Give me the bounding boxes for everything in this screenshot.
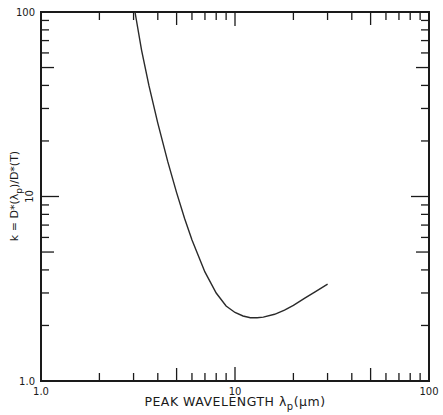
x-axis-label-sub: p [287,401,294,412]
data-curve [135,12,328,318]
y-tick-label-1: 1.0 [19,376,35,387]
chart-canvas: 1.0 10 100 1.0 100 10 PEAK WAVELENGTH λp… [0,0,443,415]
x-axis-label-main: PEAK WAVELENGTH λ [144,394,286,409]
y-axis-label-pre: k = D*(λ [8,193,21,241]
y-axis-label-post: )/D*(T) [8,151,21,188]
log-log-chart: 1.0 10 100 1.0 100 10 PEAK WAVELENGTH λp… [0,0,443,415]
y-axis-label: k = D*(λp)/D*(T) [8,151,24,241]
x-axis-label: PEAK WAVELENGTH λp(μm) [144,394,325,412]
x-tick-label-1: 1.0 [33,386,49,397]
plot-frame [41,12,429,381]
x-tick-label-100: 100 [419,386,438,397]
y-tick-label-100: 100 [16,7,35,18]
y-tick-label-10: 10 [24,190,35,203]
axis-ticks [41,12,429,381]
x-axis-label-unit: (μm) [294,394,326,409]
